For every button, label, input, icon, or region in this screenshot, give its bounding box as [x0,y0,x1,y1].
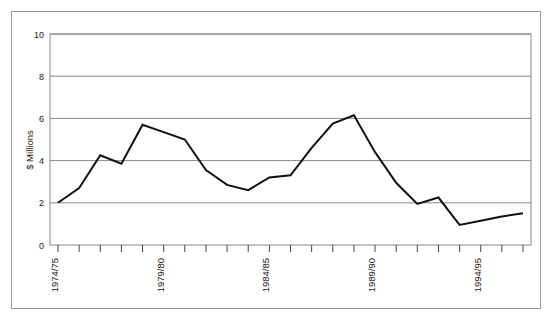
x-axis-tick-label: 1994/95 [472,258,483,292]
x-axis-tick-label: 1979/80 [155,258,166,292]
x-axis-tick-label: 1974/75 [49,258,60,292]
x-axis-ticks [58,245,523,252]
plot-area-background [50,34,531,245]
x-axis-tick-labels: 1974/751979/801984/851989/901994/95 [49,258,483,292]
line-chart: 0246810 1974/751979/801984/851989/901994… [0,0,553,321]
y-axis-tick-label: 4 [39,156,44,166]
x-axis-tick-label: 1989/90 [366,258,377,292]
y-axis-tick-label: 8 [39,72,44,82]
y-axis-tick-label: 10 [34,30,44,40]
y-axis-tick-label: 6 [39,114,44,124]
x-axis-tick-label: 1984/85 [260,258,271,292]
y-axis-tick-labels: 0246810 [34,30,44,251]
y-axis-tick-label: 2 [39,198,44,208]
y-axis-tick-label: 0 [39,241,44,251]
y-axis-title: $ Millions [24,130,35,170]
chart-figure: 0246810 1974/751979/801984/851989/901994… [0,0,553,321]
